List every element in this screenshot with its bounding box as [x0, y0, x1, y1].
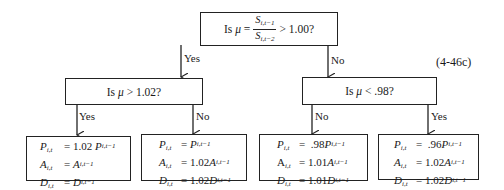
right-prefix: Is	[345, 85, 353, 97]
left-decision-box: Is μ > 1.02?	[65, 78, 203, 105]
outcome-box-4: Pi,t= .96Pi,t−1 Ai,t= 1.02Ai,t−1 Di,t= 1…	[378, 134, 479, 180]
root-yes-label: Yes	[184, 52, 200, 64]
denominator-sub: i,t−2	[261, 35, 275, 43]
equation-line: Di,t= 1.02Di,t−1	[394, 173, 478, 190]
equation-line: Pi,t= 1.02 Pi,t−1	[40, 139, 130, 157]
outcome-box-2: Pi,t= Pi,t−1 Ai,t= 1.02Ai,t−1 Di,t= 1.02…	[141, 134, 247, 181]
mu-symbol: μ	[118, 86, 124, 98]
left-yes-label: Yes	[79, 110, 95, 122]
equation-line: Di,t= 1.01Di,t−1	[277, 173, 367, 190]
right-decision-box: Is μ < .98?	[302, 77, 437, 105]
equation-line: Di,t= 1.02Di,t−1	[159, 173, 246, 190]
root-decision-box: Is μ = Si,t−1 Si,t−2 > 1.00?	[200, 12, 338, 46]
equation-number: (4-46c)	[436, 55, 471, 70]
right-yes-label: Yes	[431, 110, 447, 122]
equation-line: Ai,t= 1.02Ai,t−1	[159, 155, 246, 173]
equals-sign: =	[244, 23, 251, 35]
ratio-fraction: Si,t−1 Si,t−2	[253, 14, 276, 45]
equation-line: Ai,t= Ai,t−1	[40, 157, 130, 175]
right-no-label: No	[315, 110, 328, 122]
mu-symbol: μ	[356, 85, 362, 97]
equation-line: Pi,t= Pi,t−1	[159, 137, 246, 155]
numerator-sub: i,t−1	[261, 19, 275, 27]
left-suffix: > 1.02?	[127, 86, 162, 98]
right-suffix: < .98?	[365, 85, 394, 97]
equation-line: Ai,t= 1.02Ai,t−1	[394, 155, 478, 173]
equation-line: Di,t= Di,t−1	[40, 175, 130, 190]
root-no-label: No	[331, 54, 344, 66]
equation-line: Pi,t= .96Pi,t−1	[394, 137, 478, 155]
equation-line: Pi,t= .98Pi,t−1	[277, 137, 367, 155]
outcome-box-1: Pi,t= 1.02 Pi,t−1 Ai,t= Ai,t−1 Di,t= Di,…	[26, 136, 131, 181]
left-no-label: No	[196, 110, 209, 122]
left-prefix: Is	[107, 86, 115, 98]
mu-symbol: μ	[235, 23, 241, 35]
root-prefix: Is	[224, 23, 232, 35]
outcome-box-3: Pi,t= .98Pi,t−1 Ai,t= 1.01Ai,t−1 Di,t= 1…	[259, 134, 368, 181]
equation-line: Ai,t= 1.01Ai,t−1	[277, 155, 367, 173]
root-suffix: > 1.00?	[279, 23, 314, 35]
